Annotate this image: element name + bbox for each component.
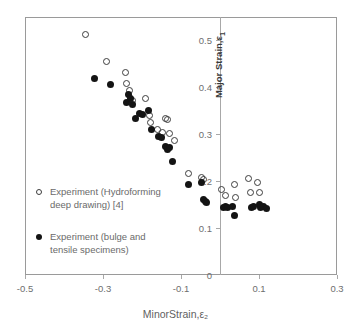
data-point-open	[103, 58, 110, 65]
y-axis-title-symbol: ε	[213, 36, 224, 41]
y-axis-title: Major Strain,ε1	[213, 32, 227, 98]
data-point-open	[254, 179, 261, 186]
data-point-filled	[169, 158, 176, 165]
y-axis-tick-label: 0	[186, 270, 212, 281]
legend-label-line2: deep drawing) [4]	[50, 199, 186, 212]
y-axis-tick	[216, 228, 220, 229]
data-point-open	[256, 189, 263, 196]
legend-label-line1: Experiment (bulge and	[50, 231, 186, 244]
y-axis-tick-label: 0.4	[186, 82, 212, 93]
x-axis-tick	[25, 275, 26, 279]
y-axis-tick-label: 0.3	[186, 129, 212, 140]
legend-item: Experiment (bulge andtensile specimens)	[36, 231, 186, 256]
x-axis-tick-label: -0.3	[95, 283, 111, 294]
legend-item: Experiment (Hydroformingdeep drawing) [4…	[36, 186, 186, 211]
legend-label-line2: tensile specimens)	[50, 244, 186, 257]
x-axis-tick	[103, 275, 104, 279]
x-axis-tick-label: 0.1	[252, 283, 265, 294]
legend-open-circle-icon	[36, 189, 42, 195]
x-axis-tick-label: 0.3	[330, 283, 343, 294]
x-axis-tick-label: -0.1	[173, 283, 189, 294]
chart-legend: Experiment (Hydroformingdeep drawing) [4…	[36, 186, 186, 269]
data-point-open	[171, 137, 178, 144]
data-point-filled	[231, 212, 238, 219]
x-axis-tick-label: -0.5	[17, 283, 33, 294]
data-point-filled	[198, 179, 205, 186]
y-axis-tick-label: 0.5	[186, 35, 212, 46]
x-axis-tick	[337, 275, 338, 279]
data-point-open	[122, 69, 129, 76]
data-point-open	[142, 95, 149, 102]
y-axis-tick	[216, 181, 220, 182]
data-point-filled	[148, 126, 155, 133]
y-axis-tick	[216, 134, 220, 135]
data-point-filled	[158, 134, 165, 141]
x-axis-title: MinorStrain,ε₂	[0, 308, 351, 320]
forming-limit-diagram: 00.10.20.30.40.5 -0.5-0.3-0.10.10.3 Majo…	[0, 0, 351, 335]
x-axis-tick	[181, 275, 182, 279]
y-axis-title-subscript: 1	[218, 32, 227, 36]
data-point-filled	[107, 81, 114, 88]
data-point-open	[166, 130, 173, 137]
data-point-open	[123, 80, 130, 87]
y-axis-title-text: Major Strain,	[213, 41, 224, 99]
x-axis-tick	[259, 275, 260, 279]
data-point-open	[245, 175, 252, 182]
data-point-filled	[185, 181, 192, 188]
legend-label-line1: Experiment (Hydroforming	[50, 186, 186, 199]
data-point-open	[247, 189, 254, 196]
data-point-open	[232, 194, 239, 201]
legend-filled-circle-icon	[36, 234, 42, 240]
y-axis-tick-label: 0.1	[186, 223, 212, 234]
